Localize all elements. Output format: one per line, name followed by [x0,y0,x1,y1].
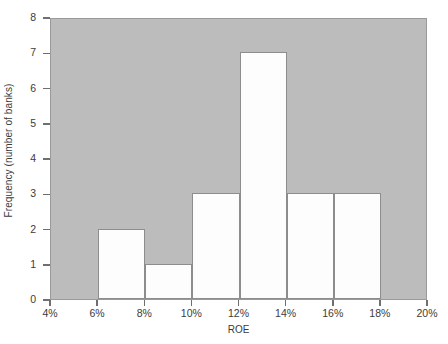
x-axis-tick [379,300,381,306]
y-axis-tick-label: 8 [8,11,36,23]
histogram-bar [334,193,381,299]
y-axis-tick-label: 6 [8,82,36,94]
plot-area [50,18,427,300]
histogram-bar [192,193,239,299]
x-axis-tick-label: 14% [264,307,308,319]
y-axis-tick [43,88,50,90]
histogram-figure: Frequency (number of banks) 012345678 4%… [0,0,448,344]
y-axis-tick-label: 5 [8,117,36,129]
x-axis-tick-label: 6% [75,307,119,319]
x-axis-tick-label: 20% [405,307,448,319]
y-axis-tick [43,17,50,19]
x-axis-tick [96,300,98,306]
y-axis-tick-label: 4 [8,152,36,164]
x-axis-tick-label: 18% [358,307,402,319]
y-axis-title: Frequency (number of banks) [0,0,18,300]
histogram-bars [51,19,426,299]
x-axis-tick-label: 12% [217,307,261,319]
x-axis-tick [49,300,51,306]
x-axis-tick-label: 4% [28,307,72,319]
histogram-bar [98,229,145,300]
y-axis-tick [43,158,50,160]
y-axis-tick [43,123,50,125]
x-axis-tick-label: 16% [311,307,355,319]
y-axis-tick [43,229,50,231]
x-axis-tick [332,300,334,306]
y-axis-tick-label: 0 [8,293,36,305]
x-axis-tick [191,300,193,306]
y-axis-tick-label: 7 [8,46,36,58]
y-axis-tick-label: 2 [8,223,36,235]
x-axis-tick [285,300,287,306]
x-axis-tick [144,300,146,306]
x-axis-tick-label: 8% [122,307,166,319]
x-axis-tick [238,300,240,306]
x-axis-tick-label: 10% [169,307,213,319]
x-axis-title: ROE [50,324,427,335]
x-axis-tick [426,300,428,306]
y-axis-tick-label: 1 [8,258,36,270]
y-axis-tick-label: 3 [8,187,36,199]
histogram-bar [287,193,334,299]
y-axis-tick [43,264,50,266]
y-axis-tick [43,53,50,55]
histogram-bar [240,52,287,299]
y-axis-tick [43,194,50,196]
histogram-bar [145,264,192,299]
